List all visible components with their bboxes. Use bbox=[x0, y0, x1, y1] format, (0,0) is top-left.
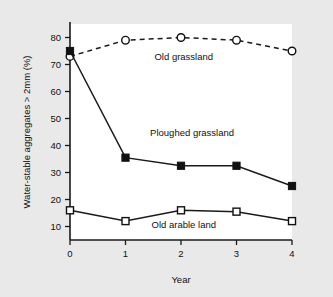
data-point-marker bbox=[177, 162, 184, 169]
y-tick-label: 40 bbox=[50, 140, 61, 151]
x-tick-label: 3 bbox=[234, 248, 239, 259]
data-point-marker bbox=[289, 218, 296, 225]
data-point-marker bbox=[178, 207, 185, 214]
y-tick-label: 30 bbox=[50, 167, 61, 178]
x-tick-label: 4 bbox=[289, 248, 294, 259]
data-point-marker bbox=[233, 162, 240, 169]
y-tick-label: 10 bbox=[50, 221, 61, 232]
data-point-marker bbox=[233, 208, 240, 215]
data-point-marker bbox=[67, 207, 74, 214]
data-point-marker bbox=[288, 182, 295, 189]
y-tick-label: 60 bbox=[50, 86, 61, 97]
data-point-marker bbox=[233, 36, 241, 44]
data-point-marker bbox=[66, 47, 73, 54]
y-axis-title: Water-stable aggregates > 2mm (%) bbox=[21, 55, 32, 208]
data-point-marker bbox=[288, 47, 296, 55]
x-axis-title: Year bbox=[171, 274, 190, 285]
y-tick-label: 80 bbox=[50, 32, 61, 43]
series-label-0: Old grassland bbox=[154, 51, 213, 62]
data-point-marker bbox=[122, 218, 129, 225]
y-tick-label: 70 bbox=[50, 59, 61, 70]
x-tick-label: 0 bbox=[67, 248, 72, 259]
data-point-marker bbox=[177, 34, 185, 42]
x-tick-label: 1 bbox=[123, 248, 128, 259]
figure-container: 1020304050607080 01234 Old grasslandPlou… bbox=[0, 0, 333, 297]
y-tick-label: 50 bbox=[50, 113, 61, 124]
series-label-1: Ploughed grassland bbox=[150, 127, 234, 138]
series-label-2: Old arable land bbox=[152, 219, 216, 230]
x-tick-label: 2 bbox=[178, 248, 183, 259]
data-point-marker bbox=[122, 36, 130, 44]
line-chart: 1020304050607080 01234 Old grasslandPlou… bbox=[0, 0, 333, 297]
y-tick-label: 20 bbox=[50, 194, 61, 205]
data-point-marker bbox=[122, 154, 129, 161]
